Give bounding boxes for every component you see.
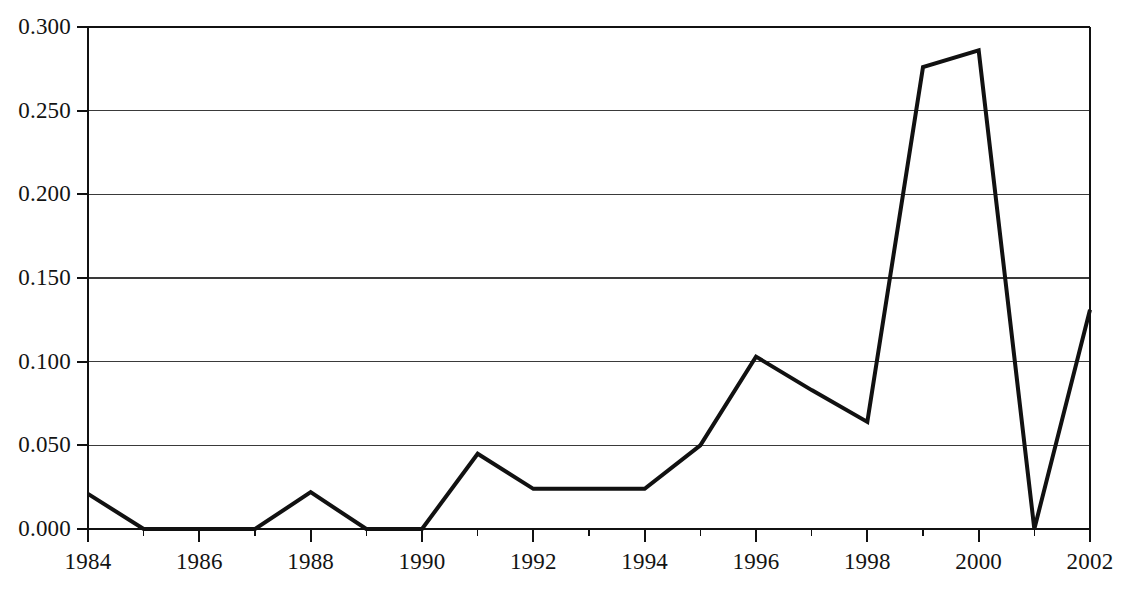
- chart-plot-area: [0, 0, 1124, 594]
- data-line: [88, 50, 1090, 529]
- y-axis-ticks: [77, 27, 88, 529]
- line-chart: 0.3000.2500.2000.1500.1000.0500.000 1984…: [0, 0, 1124, 594]
- data-line-series-1: [88, 50, 1090, 529]
- gridlines-horizontal: [88, 27, 1090, 529]
